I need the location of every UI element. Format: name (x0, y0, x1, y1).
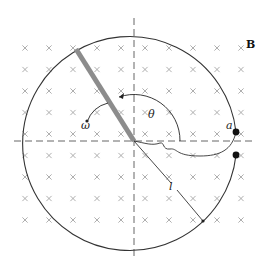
cross-icon (190, 45, 195, 50)
omega-label: ω (81, 119, 90, 132)
cross-icon (142, 196, 147, 201)
cross-icon (118, 196, 123, 201)
cross-icon (142, 217, 147, 222)
cross-icon (70, 110, 75, 115)
point-a-label: a (226, 119, 233, 132)
cross-icon (70, 88, 75, 93)
cross-icon (22, 217, 27, 222)
cross-icon (238, 196, 243, 201)
cross-icon (46, 217, 51, 222)
cross-icon (22, 196, 27, 201)
cross-icon (166, 45, 171, 50)
cross-icon (190, 217, 195, 222)
cross-icon (118, 153, 123, 158)
cross-icon (46, 131, 51, 136)
cross-icon (70, 217, 75, 222)
length-label: l (169, 180, 173, 193)
cross-icon (94, 67, 99, 72)
cross-icon (214, 174, 219, 179)
cross-icon (70, 67, 75, 72)
cross-icon (46, 45, 51, 50)
cross-icon (46, 196, 51, 201)
cross-icon (190, 88, 195, 93)
cross-icon (70, 174, 75, 179)
circuit-wire (134, 132, 236, 156)
theta-label: θ (148, 108, 155, 121)
cross-icon (46, 110, 51, 115)
cross-icon (190, 67, 195, 72)
cross-icon (238, 45, 243, 50)
cross-icon (166, 88, 171, 93)
cross-icon (142, 110, 147, 115)
cross-icon (46, 153, 51, 158)
contact-point-a (233, 129, 240, 136)
cross-icon (94, 174, 99, 179)
cross-icon (238, 67, 243, 72)
radius-endpoint (201, 219, 204, 222)
cross-icon (238, 217, 243, 222)
cross-icon (94, 153, 99, 158)
cross-icon (238, 88, 243, 93)
cross-icon (46, 174, 51, 179)
cross-icon (166, 67, 171, 72)
cross-icon (214, 196, 219, 201)
cross-icon (142, 131, 147, 136)
cross-icon (238, 174, 243, 179)
cross-icon (70, 196, 75, 201)
cross-icon (94, 45, 99, 50)
cross-icon (94, 110, 99, 115)
cross-icon (142, 174, 147, 179)
cross-icon (142, 45, 147, 50)
cross-icon (238, 110, 243, 115)
cross-icon (94, 217, 99, 222)
cross-icon (142, 88, 147, 93)
cross-icon (46, 88, 51, 93)
contact-point-lower (233, 152, 240, 159)
cross-icon (142, 67, 147, 72)
field-label-B: B (246, 38, 255, 51)
cross-icon (118, 217, 123, 222)
cross-icon (22, 67, 27, 72)
cross-icon (70, 131, 75, 136)
cross-icon (22, 88, 27, 93)
cross-icon (22, 45, 27, 50)
cross-icon (166, 131, 171, 136)
cross-icon (166, 153, 171, 158)
cross-icon (214, 45, 219, 50)
cross-icon (190, 196, 195, 201)
cross-icon (118, 88, 123, 93)
cross-icon (118, 67, 123, 72)
cross-icon (190, 131, 195, 136)
cross-icon (94, 196, 99, 201)
circular-rail (23, 36, 236, 250)
cross-icon (214, 88, 219, 93)
cross-icon (118, 45, 123, 50)
cross-icon (214, 131, 219, 136)
cross-icon (118, 131, 123, 136)
cross-icon (166, 196, 171, 201)
cross-icon (118, 174, 123, 179)
magnetic-field-crosses (22, 45, 243, 222)
radius-line-lower (177, 190, 203, 221)
cross-icon (214, 217, 219, 222)
cross-icon (70, 153, 75, 158)
diagram-canvas: B ω θ l a (0, 0, 269, 273)
cross-icon (214, 110, 219, 115)
cross-icon (190, 110, 195, 115)
cross-icon (214, 67, 219, 72)
theta-arrowhead-icon (119, 93, 124, 99)
cross-icon (166, 217, 171, 222)
cross-icon (94, 131, 99, 136)
cross-icon (190, 174, 195, 179)
